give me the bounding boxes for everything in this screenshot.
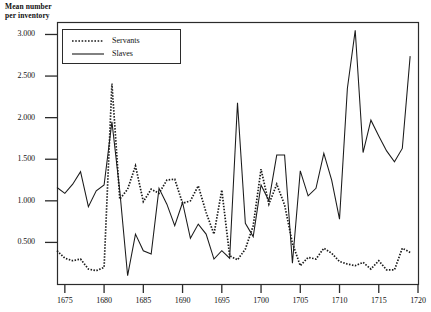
x-axis-tick-label: 1685 [128,296,158,305]
legend-label-servants: Servants [112,36,140,45]
x-axis-tick-label: 1710 [325,296,355,305]
x-axis-tick-label: 1680 [89,296,119,305]
y-axis-tick-label: 1.000 [1,196,35,205]
chart-figure: Mean number per inventory Servants Slave… [0,0,431,312]
x-axis-tick-label: 1695 [207,296,237,305]
y-axis-tick-label: 3.000 [1,29,35,38]
y-axis-tick-marks [45,34,57,242]
series-line-slaves [57,30,410,275]
data-series-group [57,30,410,275]
y-axis-tick-label: 2.500 [1,71,35,80]
y-axis-tick-label: 1.500 [1,154,35,163]
plot-canvas [0,0,431,312]
y-axis-tick-label: 0.500 [1,237,35,246]
x-axis-tick-label: 1700 [246,296,276,305]
legend-box [63,30,181,64]
x-axis-tick-label: 1675 [50,296,80,305]
x-axis-tick-label: 1705 [285,296,315,305]
x-axis-tick-marks [65,284,418,293]
x-axis-tick-label: 1715 [364,296,394,305]
legend-label-slaves: Slaves [112,49,133,58]
x-axis-tick-label: 1720 [403,296,431,305]
y-axis-tick-label: 2.000 [1,113,35,122]
x-axis-tick-label: 1690 [168,296,198,305]
